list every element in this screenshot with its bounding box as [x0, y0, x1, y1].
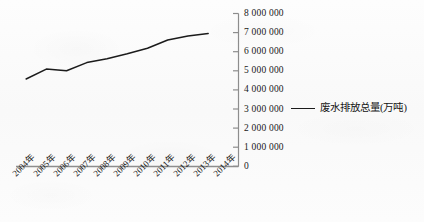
y-tick-label-5000000: 5 000 000 — [244, 65, 284, 75]
y-tick-label-4000000: 4 000 000 — [244, 84, 284, 94]
y-tick-label-2000000: 2 000 000 — [244, 123, 284, 133]
data-series-line — [26, 34, 208, 79]
y-tick-label-0: 0 — [244, 161, 249, 171]
legend-entry-label: 废水排放总量(万吨) — [320, 102, 407, 114]
y-tick-label-6000000: 6 000 000 — [244, 46, 284, 56]
y-tick-label-3000000: 3 000 000 — [244, 104, 284, 114]
legend-line-swatch — [291, 108, 315, 109]
y-tick-label-8000000: 8 000 000 — [244, 8, 284, 18]
chart-legend: 废水排放总量(万吨) — [291, 102, 407, 114]
y-tick-label-7000000: 7 000 000 — [244, 27, 284, 37]
y-axis-ticks — [233, 14, 239, 167]
chart-screenshot: 8 000 000 7 000 000 6 000 000 5 000 000 … — [0, 0, 424, 222]
y-tick-label-1000000: 1 000 000 — [244, 142, 284, 152]
